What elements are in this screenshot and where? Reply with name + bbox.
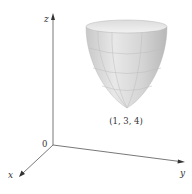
- paraboloid-surface: [86, 20, 167, 108]
- paraboloid-figure: z y x 0 (1, 3, 4): [0, 0, 192, 194]
- paraboloid-rim: [86, 20, 167, 33]
- x-axis: [23, 145, 53, 173]
- diagram-canvas: z y x 0 (1, 3, 4): [0, 0, 192, 194]
- x-axis-label: x: [8, 170, 13, 180]
- y-axis: [53, 145, 180, 162]
- vertex-label: (1, 3, 4): [109, 116, 143, 126]
- z-axis-label: z: [43, 14, 49, 24]
- z-axis-arrow-icon: [51, 13, 55, 20]
- y-axis-label: y: [179, 168, 186, 178]
- origin-label: 0: [42, 139, 47, 149]
- y-axis-arrow-icon: [178, 160, 186, 164]
